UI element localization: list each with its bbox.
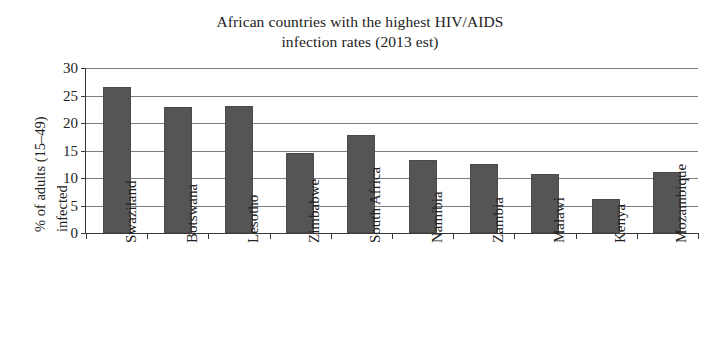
y-axis-tick [81, 178, 86, 179]
chart-title-line-1: African countries with the highest HIV/A… [150, 12, 570, 32]
y-axis-tick-label: 25 [63, 87, 78, 104]
x-axis-tick [637, 233, 638, 239]
y-axis-tick-label: 20 [63, 115, 78, 132]
y-axis-tick-label: 15 [63, 142, 78, 159]
y-axis-tick-label: 0 [71, 225, 79, 242]
x-axis-tick [147, 233, 148, 239]
x-axis-tick [392, 233, 393, 239]
x-axis-tick [270, 233, 271, 239]
x-axis-tick-label: Zambia [490, 197, 507, 243]
chart-title-line-2: infection rates (2013 est) [150, 32, 570, 52]
y-axis-tick [81, 96, 86, 97]
x-axis-tick-label: Lesotho [245, 195, 262, 243]
x-axis-tick [331, 233, 332, 239]
x-axis-tick-label: Mozambique [673, 164, 690, 243]
y-axis-title-line-2: infected [54, 185, 71, 232]
gridline [86, 68, 698, 69]
x-axis-tick [698, 233, 699, 239]
gridline [86, 96, 698, 97]
x-axis-tick-label: Zimbabwe [306, 179, 323, 243]
y-axis-tick-label: 10 [63, 170, 78, 187]
x-axis-tick-label: South Africa [367, 167, 384, 243]
y-axis-tick-label: 30 [63, 60, 78, 77]
x-axis-tick-label: Namibia [429, 191, 446, 243]
y-axis-tick [81, 206, 86, 207]
x-axis-tick [86, 233, 87, 239]
y-axis-tick [81, 123, 86, 124]
y-axis-tick [81, 151, 86, 152]
y-axis-title-line-1: % of adults (15–49) [32, 116, 49, 232]
chart-title: African countries with the highest HIV/A… [150, 12, 570, 52]
x-axis-tick [514, 233, 515, 239]
x-axis-tick [453, 233, 454, 239]
y-axis-tick-label: 5 [71, 197, 79, 214]
chart-container: African countries with the highest HIV/A… [0, 0, 710, 352]
y-axis-tick [81, 68, 86, 69]
x-axis-tick [208, 233, 209, 239]
x-axis-tick [576, 233, 577, 239]
x-axis-tick-label: Malawi [551, 197, 568, 243]
plot-area: 051015202530SwazilandBotswanaLesothoZimb… [85, 68, 698, 234]
x-axis-tick-label: Botswana [184, 184, 201, 243]
x-axis-tick-label: Kenya [612, 204, 629, 243]
x-axis-tick-label: Swaziland [123, 181, 140, 243]
